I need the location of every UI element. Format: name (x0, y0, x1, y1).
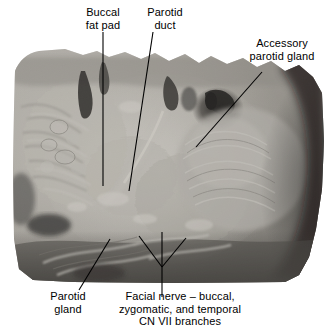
dissection-photograph-image (13, 49, 325, 283)
label-accessory-parotid-gland: Accessory parotid gland (232, 37, 332, 62)
anatomy-figure: Buccal fat pad Parotid duct Accessory pa… (0, 0, 336, 329)
label-parotid-duct: Parotid duct (134, 6, 196, 31)
dissection-photograph (13, 49, 325, 283)
label-parotid-gland: Parotid gland (38, 290, 98, 315)
label-facial-nerve: Facial nerve – buccal, zygomatic, and te… (100, 290, 260, 328)
specimen-body (13, 49, 325, 283)
label-buccal-fat-pad: Buccal fat pad (72, 6, 134, 31)
